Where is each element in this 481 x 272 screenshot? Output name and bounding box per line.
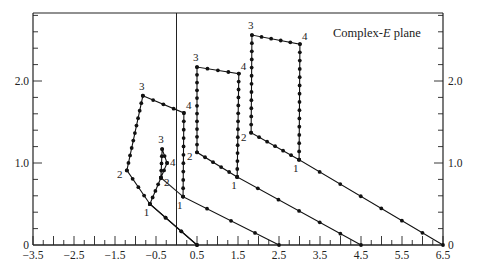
data-point bbox=[236, 159, 240, 163]
data-point bbox=[297, 125, 301, 129]
data-point bbox=[359, 194, 363, 198]
data-point bbox=[130, 146, 134, 150]
data-point bbox=[237, 96, 241, 100]
point-labels: 1234123412341234 bbox=[117, 19, 308, 218]
x-tick-label: 1.5 bbox=[231, 249, 246, 261]
point-label-1: 1 bbox=[231, 179, 237, 191]
data-point bbox=[359, 243, 363, 247]
data-point bbox=[236, 119, 240, 123]
x-tick-label: 5.5 bbox=[395, 249, 410, 261]
data-point bbox=[195, 243, 199, 247]
point-label-2: 2 bbox=[164, 176, 170, 188]
data-point bbox=[181, 186, 185, 190]
data-point bbox=[250, 82, 254, 86]
data-point bbox=[250, 58, 254, 62]
data-point bbox=[249, 114, 253, 118]
data-point bbox=[182, 111, 186, 115]
data-point bbox=[298, 75, 302, 79]
point-label-4: 4 bbox=[186, 99, 192, 111]
data-point bbox=[249, 123, 253, 127]
data-point bbox=[182, 128, 186, 132]
data-point bbox=[182, 145, 186, 149]
data-point bbox=[160, 162, 164, 166]
data-point bbox=[181, 170, 185, 174]
data-point bbox=[250, 90, 254, 94]
x-tick-label: 3.5 bbox=[313, 249, 328, 261]
contour-B bbox=[127, 96, 279, 245]
data-point bbox=[125, 168, 129, 172]
data-point bbox=[421, 231, 425, 235]
data-point bbox=[400, 219, 404, 223]
data-point bbox=[249, 98, 253, 102]
data-point bbox=[250, 74, 254, 78]
x-axis-ticks: −3.5−2.5−1.5−0.50.51.52.53.54.55.56.5 bbox=[23, 236, 451, 261]
data-point bbox=[151, 196, 155, 200]
data-point bbox=[298, 92, 302, 96]
data-point bbox=[318, 220, 322, 224]
data-point bbox=[156, 182, 160, 186]
point-label-4: 4 bbox=[302, 30, 308, 42]
data-point bbox=[297, 150, 301, 154]
data-point bbox=[249, 131, 253, 135]
x-tick-label: −2.5 bbox=[64, 249, 85, 261]
contour-C bbox=[197, 67, 361, 245]
data-point bbox=[203, 155, 207, 159]
point-label-3: 3 bbox=[193, 51, 199, 63]
data-point bbox=[250, 49, 254, 53]
data-point bbox=[164, 216, 168, 220]
data-point bbox=[162, 168, 166, 172]
contour-curves bbox=[125, 33, 445, 247]
data-point bbox=[229, 219, 233, 223]
data-point bbox=[279, 39, 283, 43]
x-tick-label: 0.5 bbox=[190, 249, 205, 261]
data-point bbox=[237, 80, 241, 84]
data-point bbox=[153, 189, 157, 193]
data-point bbox=[269, 37, 273, 41]
data-point bbox=[250, 33, 254, 37]
y-tick-label-right: 2.0 bbox=[448, 75, 463, 87]
data-point bbox=[277, 198, 281, 202]
data-point bbox=[235, 167, 239, 171]
point-label-4: 4 bbox=[170, 156, 176, 168]
data-point bbox=[226, 70, 230, 74]
data-point bbox=[181, 161, 185, 165]
data-point bbox=[298, 100, 302, 104]
data-point bbox=[260, 35, 264, 39]
data-point bbox=[281, 149, 285, 153]
data-point bbox=[289, 153, 293, 157]
x-tick-label: 4.5 bbox=[354, 249, 369, 261]
data-point bbox=[298, 50, 302, 54]
y-tick-label-left: 1.0 bbox=[15, 157, 30, 169]
data-point bbox=[179, 229, 183, 233]
data-point bbox=[136, 116, 140, 120]
point-label-1: 1 bbox=[293, 162, 299, 174]
point-label-3: 3 bbox=[139, 80, 145, 92]
x-tick-label: −0.5 bbox=[146, 249, 167, 261]
data-point bbox=[131, 177, 135, 181]
data-point bbox=[195, 127, 199, 131]
data-point bbox=[265, 140, 269, 144]
data-point bbox=[182, 119, 186, 123]
data-point bbox=[256, 186, 260, 190]
data-point bbox=[172, 107, 176, 111]
data-point bbox=[219, 165, 223, 169]
data-point bbox=[249, 106, 253, 110]
data-point bbox=[139, 101, 143, 105]
data-point bbox=[195, 73, 199, 77]
data-point bbox=[138, 109, 142, 113]
point-label-2: 2 bbox=[241, 131, 247, 143]
data-point bbox=[182, 153, 186, 157]
data-point bbox=[128, 154, 132, 158]
data-point bbox=[298, 59, 302, 63]
data-point bbox=[297, 133, 301, 137]
data-point bbox=[141, 94, 145, 98]
data-point bbox=[379, 207, 383, 211]
data-point bbox=[142, 194, 146, 198]
data-point bbox=[298, 83, 302, 87]
data-point bbox=[441, 243, 445, 247]
point-label-3: 3 bbox=[248, 19, 254, 31]
point-label-4: 4 bbox=[241, 60, 247, 72]
data-point bbox=[195, 112, 199, 116]
data-point bbox=[211, 160, 215, 164]
point-label-2: 2 bbox=[117, 168, 123, 180]
